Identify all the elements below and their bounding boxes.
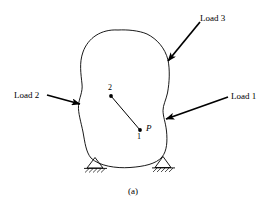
figure-caption: (a) <box>128 186 138 196</box>
point-p-label: P <box>146 123 152 133</box>
segment-node2-node1 <box>111 96 140 130</box>
right-pin-support <box>152 157 175 173</box>
load-3-label: Load 3 <box>200 13 225 23</box>
figure-load-diagram: Load 3 Load 2 Load 1 2 1 P (a) <box>0 0 272 208</box>
load-2-arrow <box>47 95 80 104</box>
figure-drawing-canvas <box>0 0 272 208</box>
node-2-label: 2 <box>108 83 112 92</box>
body-outline <box>78 30 169 168</box>
load-1-arrow <box>166 97 228 119</box>
load-2-label: Load 2 <box>14 90 39 100</box>
load-1-label: Load 1 <box>231 91 256 101</box>
node-1-label: 1 <box>137 132 141 141</box>
load-3-arrow <box>168 22 200 61</box>
node-2-dot <box>109 94 113 98</box>
